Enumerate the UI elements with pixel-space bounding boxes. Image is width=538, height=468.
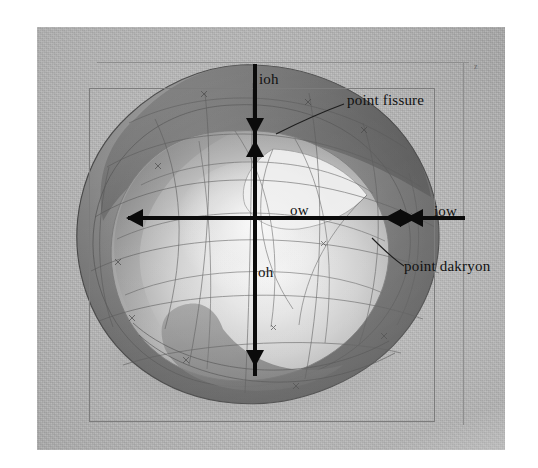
measure-arrowhead-ioh-down [246,118,264,135]
measure-arrowhead-ioh-up [246,140,264,157]
landmark-label-point-fissure: point fissure [347,93,424,108]
measure-arrowhead-iow-left [406,209,423,227]
measure-arrowhead-oh-bottom [246,350,264,367]
measure-arrowhead-ow-left [126,209,143,227]
measure-axis-oh-shaft [253,64,257,376]
measure-arrowhead-ow-right [384,209,401,227]
measure-label-ioh: ioh [259,72,279,87]
measure-label-iow: iow [434,204,457,219]
figure-root: z oh ioh ow iow point fissure point dakr… [0,0,538,468]
measure-label-ow: ow [290,203,309,218]
measure-label-oh: oh [258,265,273,280]
landmark-label-point-dakryon: point dakryon [404,259,490,274]
leader-line-point-dakryon [372,238,404,266]
leader-line-point-fissure [276,104,344,134]
